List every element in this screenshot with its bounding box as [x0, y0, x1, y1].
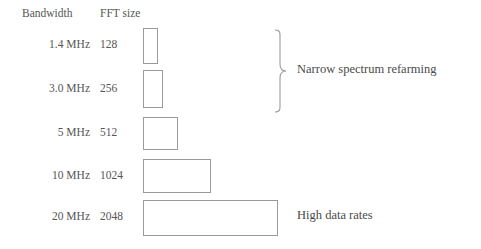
annotation-narrow-spectrum-refarming: Narrow spectrum refarming	[297, 62, 437, 77]
row-value-fft-size: 1024	[100, 169, 123, 181]
row-value-fft-size: 256	[100, 82, 117, 94]
row-label-bandwidth: 1.4 MHz	[18, 38, 90, 50]
row-value-fft-size: 2048	[100, 210, 123, 222]
column-header-fft-size: FFT size	[100, 7, 140, 19]
row-label-bandwidth: 5 MHz	[18, 126, 90, 138]
bar-20-mhz	[143, 200, 278, 236]
bar-3-0-mhz	[143, 70, 163, 108]
annotation-high-data-rates: High data rates	[297, 208, 373, 223]
row-label-bandwidth: 10 MHz	[18, 169, 90, 181]
bar-1-4-mhz	[143, 28, 158, 64]
bandwidth-fft-diagram: Bandwidth FFT size 1.4 MHz 128 3.0 MHz 2…	[0, 0, 481, 249]
row-label-bandwidth: 20 MHz	[18, 210, 90, 222]
column-header-bandwidth: Bandwidth	[22, 7, 72, 19]
curly-brace-icon	[272, 29, 288, 113]
bar-5-mhz	[143, 117, 178, 150]
row-label-bandwidth: 3.0 MHz	[18, 82, 90, 94]
row-value-fft-size: 128	[100, 38, 117, 50]
bar-10-mhz	[143, 159, 211, 193]
row-value-fft-size: 512	[100, 126, 117, 138]
